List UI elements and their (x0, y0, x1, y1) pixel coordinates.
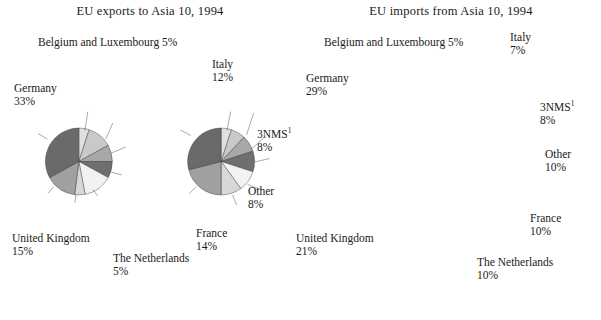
pie-label-exports-3nms: 3NMS18% (257, 128, 291, 154)
leader-line-germany (181, 130, 191, 135)
pie-label-exports-belgium-and-luxembourg: Belgium and Luxembourg 5% (38, 36, 177, 49)
pie-label-name: 3NMS (540, 101, 571, 113)
pie-label-imports-the-netherlands: The Netherlands10% (477, 256, 553, 282)
pie-label-name: United Kingdom (296, 232, 374, 244)
pie-label-imports-belgium-and-luxembourg: Belgium and Luxembourg 5% (324, 36, 463, 49)
leader-line-united-kingdom (48, 186, 54, 193)
pie-label-exports-united-kingdom: United Kingdom15% (12, 232, 90, 258)
pie-label-percent: 8% (540, 114, 574, 127)
leader-line-italy (247, 113, 254, 135)
pie-label-exports-italy: Italy12% (212, 58, 233, 84)
leader-line-3nms (111, 147, 125, 153)
pie-label-name: Belgium and Luxembourg (38, 36, 159, 48)
pie-label-imports-germany: Germany29% (306, 72, 349, 98)
pie-label-exports-germany: Germany33% (14, 82, 57, 108)
pie-label-name: Belgium and Luxembourg (324, 36, 445, 48)
pie-label-percent: 33% (14, 95, 57, 108)
pie-label-imports-3nms: 3NMS18% (540, 101, 574, 127)
pie-label-percent: 10% (477, 269, 553, 282)
pie-label-exports-france: France14% (196, 227, 227, 253)
pie-label-name: France (196, 227, 227, 239)
pie-label-name: Germany (14, 82, 57, 94)
pie-label-name: United Kingdom (12, 232, 90, 244)
trade-pie-chart-figure: EU exports to Asia 10, 1994 EU imports f… (0, 0, 601, 320)
leader-line-the-netherlands (233, 195, 237, 205)
footnote-marker: 1 (571, 99, 575, 108)
pie-label-name: France (530, 212, 561, 224)
pie-label-name: Other (248, 185, 274, 197)
leader-line-germany (38, 134, 47, 139)
pie-label-imports-other: Other10% (545, 148, 571, 174)
pie-label-percent: 10% (545, 161, 571, 174)
pie-label-percent: 7% (510, 44, 531, 57)
leader-line-belgium-and-luxembourg (227, 112, 230, 131)
pie-label-percent: 14% (196, 240, 227, 253)
pie-label-imports-italy: Italy7% (510, 31, 531, 57)
pie-label-name: Other (545, 148, 571, 160)
pie-label-percent: 21% (296, 245, 374, 258)
pie-label-percent: 29% (306, 85, 349, 98)
leader-line-belgium-and-luxembourg (85, 112, 88, 131)
pie-label-imports-france: France10% (530, 212, 561, 238)
pie-label-name: 3NMS (257, 128, 288, 140)
footnote-marker: 1 (288, 126, 292, 135)
pie-label-percent: 10% (530, 225, 561, 238)
pie-label-percent: 15% (12, 245, 90, 258)
leader-line-other (255, 159, 270, 162)
pie-label-exports-other: Other8% (248, 185, 274, 211)
pie-label-imports-united-kingdom: United Kingdom21% (296, 232, 374, 258)
pie-label-percent: 12% (212, 71, 233, 84)
pie-label-name: Germany (306, 72, 349, 84)
pie-label-percent: 5% (113, 265, 189, 278)
leader-line-italy (106, 123, 113, 139)
pie-label-name: The Netherlands (113, 252, 189, 264)
pie-label-name: Italy (510, 31, 531, 43)
leader-line-the-netherlands (75, 195, 76, 203)
chart-title-imports: EU imports from Asia 10, 1994 (301, 4, 601, 19)
pie-label-percent: 5% (162, 36, 177, 48)
pie-label-percent: 8% (257, 141, 291, 154)
pie-label-name: Italy (212, 58, 233, 70)
pie-label-name: The Netherlands (477, 256, 553, 268)
pie-label-percent: 5% (448, 36, 463, 48)
leader-line-united-kingdom (190, 186, 196, 193)
leader-line-other (111, 172, 122, 175)
pie-label-exports-the-netherlands: The Netherlands5% (113, 252, 189, 278)
pie-label-percent: 8% (248, 198, 274, 211)
